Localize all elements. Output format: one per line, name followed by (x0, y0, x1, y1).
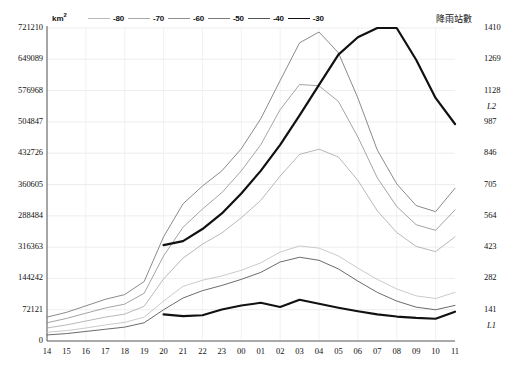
y-tick-right: 282 (484, 272, 496, 282)
series-line-L2[interactable] (164, 28, 455, 245)
y-tick-right: 1410 (484, 22, 501, 32)
y-tick-left: 0 (0, 335, 43, 345)
y-tick-right: 987 (484, 116, 496, 126)
y-tick-left: 649089 (0, 53, 43, 63)
series-line-neg60[interactable] (47, 85, 455, 323)
y-tick-right: 141 (484, 304, 496, 314)
y-tick-left: 721210 (0, 22, 43, 32)
y-tick-left: 432726 (0, 147, 43, 157)
chart-root: km2 -80-70-60-50-40-30 降雨站數 721210649089… (0, 0, 517, 372)
y-tick-right: 564 (484, 210, 496, 220)
y-tick-right: 846 (484, 147, 496, 157)
y-tick-left: 504847 (0, 116, 43, 126)
y-tick-left: 72121 (0, 304, 43, 314)
y-tick-left: 144242 (0, 272, 43, 282)
series-line-neg80[interactable] (47, 246, 455, 332)
y-tick-left: 576968 (0, 85, 43, 95)
y-tick-left: 288484 (0, 210, 43, 220)
series-line-neg40[interactable] (47, 257, 455, 335)
x-tick: 11 (443, 346, 467, 356)
series-label-l1: L1 (487, 320, 496, 330)
series-label-l2: L2 (487, 101, 496, 111)
chart-plot-area (0, 0, 517, 372)
y-tick-right: 1269 (484, 53, 501, 63)
series-line-neg70[interactable] (47, 149, 455, 328)
y-tick-right: 705 (484, 179, 496, 189)
y-tick-right: 423 (484, 241, 496, 251)
series-line-neg50[interactable] (47, 32, 455, 317)
y-tick-right: 1128 (484, 85, 500, 95)
y-tick-left: 360605 (0, 179, 43, 189)
series-line-neg30[interactable] (164, 300, 455, 319)
y-tick-left: 316363 (0, 241, 43, 251)
